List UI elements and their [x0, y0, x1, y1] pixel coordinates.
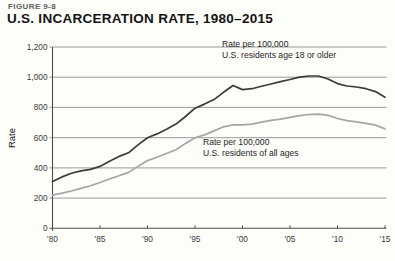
- x-tick-label-2015: '15: [380, 234, 391, 244]
- y-tick-label-1000: 1,000: [27, 72, 48, 82]
- x-tick-label-2000: '00: [237, 234, 248, 244]
- y-tick-label-200: 200: [34, 193, 48, 203]
- y-tick-label-800: 800: [34, 102, 48, 112]
- x-tick-label-1990: '90: [142, 234, 153, 244]
- series-label-all-ages-line2: U.S. residents of all ages: [203, 148, 299, 159]
- x-tick-label-1980: '80: [47, 234, 58, 244]
- x-tick-label-2005: '05: [285, 234, 296, 244]
- series-label-adults-line1: Rate per 100,000: [222, 39, 336, 50]
- x-tick-label-1995: '95: [190, 234, 201, 244]
- series-label-adults-line2: U.S. residents age 18 or older: [222, 50, 336, 61]
- series-label-all-ages: Rate per 100,000 U.S. residents of all a…: [203, 137, 299, 159]
- series-label-all-ages-line1: Rate per 100,000: [203, 137, 299, 148]
- y-tick-label-400: 400: [34, 163, 48, 173]
- y-tick-label-0: 0: [43, 223, 48, 233]
- y-tick-label-600: 600: [34, 133, 48, 143]
- y-tick-label-1200: 1,200: [27, 42, 48, 52]
- y-axis-title: Rate: [6, 128, 17, 148]
- series-label-adults: Rate per 100,000 U.S. residents age 18 o…: [222, 39, 336, 61]
- x-tick-label-2010: '10: [332, 234, 343, 244]
- x-tick-label-1985: '85: [95, 234, 106, 244]
